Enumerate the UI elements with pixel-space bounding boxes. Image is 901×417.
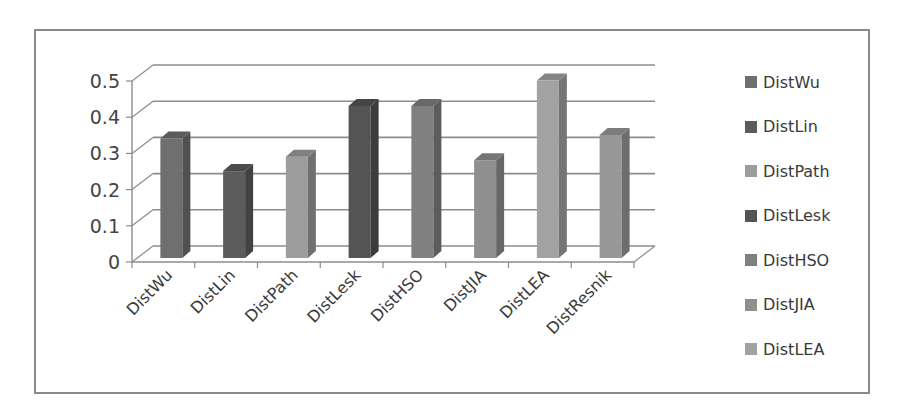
- bar-side-disthso: [433, 99, 441, 258]
- x-tick-label: DistWu: [123, 265, 177, 319]
- bar-side-distlin: [245, 164, 253, 258]
- side-wall-gridline: [132, 174, 153, 190]
- bar-side-distwu: [182, 132, 190, 258]
- y-tick-label: 0.2: [90, 179, 120, 201]
- x-tick-label: DistLin: [187, 265, 239, 317]
- legend-item: DistWu: [745, 60, 830, 105]
- side-wall-gridline: [132, 210, 153, 226]
- y-tick-label: 0.3: [90, 142, 120, 164]
- legend-label: DistLEA: [763, 340, 824, 359]
- legend-swatch: [745, 210, 757, 222]
- bar-side-distpath: [308, 150, 316, 258]
- bar-disthso: [411, 106, 433, 258]
- legend-swatch: [745, 76, 757, 88]
- bar-distpath: [286, 157, 308, 258]
- y-tick-label: 0: [108, 251, 120, 273]
- bar-distlin: [223, 171, 245, 258]
- legend-item: DistPath: [745, 149, 830, 194]
- legend-swatch: [745, 299, 757, 311]
- bar-distlesk: [349, 106, 371, 258]
- legend-label: DistWu: [763, 73, 820, 92]
- side-wall-gridline: [132, 246, 153, 262]
- legend-label: DistPath: [763, 162, 830, 181]
- side-wall-gridline: [132, 101, 153, 117]
- bar-distlea: [537, 81, 559, 258]
- legend-swatch: [745, 254, 757, 266]
- floor-right-edge: [634, 246, 655, 262]
- legend-swatch: [745, 121, 757, 133]
- bar-side-distjia: [496, 153, 504, 258]
- legend-item: DistLesk: [745, 194, 830, 239]
- legend-label: DistLesk: [763, 206, 830, 225]
- legend-item: DistLin: [745, 105, 830, 150]
- legend-item: DistLEA: [745, 327, 830, 372]
- y-tick-label: 0.5: [90, 70, 120, 92]
- y-tick-label: 0.4: [90, 106, 120, 128]
- legend-item: DistHSO: [745, 238, 830, 283]
- legend-swatch: [745, 165, 757, 177]
- legend-label: DistLin: [763, 117, 818, 136]
- bar-side-distresnik: [622, 128, 630, 258]
- legend-label: DistHSO: [763, 251, 829, 270]
- x-tick-label: DistLesk: [303, 265, 365, 327]
- bar-side-distlesk: [371, 99, 379, 258]
- side-wall-gridline: [132, 65, 153, 81]
- x-tick-label: DistHSO: [367, 265, 427, 325]
- legend-item: DistJIA: [745, 283, 830, 328]
- bar-side-distlea: [559, 74, 567, 258]
- legend-label: DistJIA: [763, 295, 815, 314]
- legend-swatch: [745, 343, 757, 355]
- bar-distresnik: [600, 135, 622, 258]
- chart-legend: DistWuDistLinDistPathDistLeskDistHSODist…: [745, 60, 830, 372]
- x-tick-label: DistJIA: [440, 265, 490, 315]
- x-tick-label: DistResnik: [543, 265, 616, 338]
- bar-distwu: [160, 139, 182, 258]
- bar-distjia: [474, 160, 496, 258]
- x-tick-label: DistLEA: [496, 265, 553, 322]
- y-tick-label: 0.1: [90, 215, 120, 237]
- side-wall-gridline: [132, 137, 153, 153]
- x-tick-label: DistPath: [241, 265, 301, 325]
